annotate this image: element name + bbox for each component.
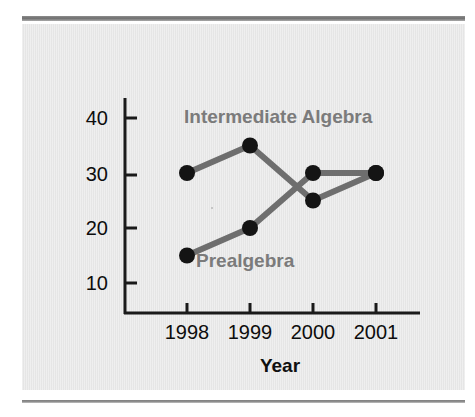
data-point (242, 220, 258, 236)
data-point (179, 165, 195, 181)
data-point (368, 165, 384, 181)
y-tick-marks (125, 118, 137, 283)
data-point (305, 193, 321, 209)
plot-area (0, 0, 475, 417)
figure-page: Number of Sections 40 30 20 10 1998 1999… (0, 0, 475, 417)
data-point (242, 138, 258, 154)
data-point (179, 248, 195, 264)
data-point (305, 165, 321, 181)
